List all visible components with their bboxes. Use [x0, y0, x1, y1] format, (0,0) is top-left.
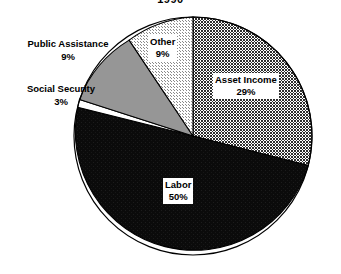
slice-label-labor-value: 50% [165, 191, 191, 203]
slice-label-social-security-value: 3% [2, 96, 120, 109]
slice-label-labor-name: Labor [165, 179, 191, 190]
slice-label-social-security-name: Social Security [27, 83, 95, 94]
slice-label-public-assistance-name: Public Assistance [28, 38, 109, 49]
slice-label-other: Other 9% [148, 35, 177, 61]
slice-label-labor: Labor 50% [163, 178, 193, 204]
slice-label-other-value: 9% [150, 48, 175, 60]
slice-label-asset-income-name: Asset Income [215, 74, 277, 85]
slice-label-asset-income-value: 29% [215, 86, 277, 98]
slice-label-public-assistance: Public Assistance 9% [6, 38, 130, 63]
pie-chart: 1990 [0, 0, 341, 274]
slice-label-social-security: Social Security 3% [2, 83, 120, 108]
slice-label-public-assistance-value: 9% [6, 51, 130, 64]
slice-label-other-name: Other [150, 36, 175, 47]
slice-label-asset-income: Asset Income 29% [213, 73, 279, 99]
